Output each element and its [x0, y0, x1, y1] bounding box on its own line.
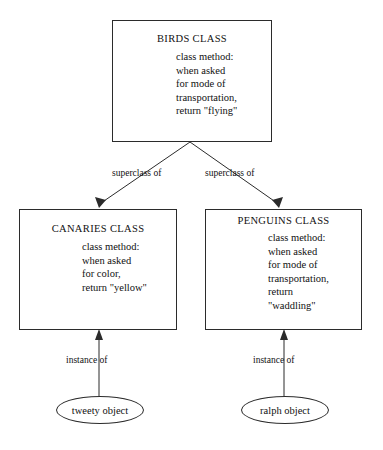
object-label-ralph: ralph object — [260, 405, 310, 416]
class-body-canaries: class method: when asked for color, retu… — [20, 240, 176, 294]
class-body-line: class method: — [268, 231, 361, 245]
edge-label-instance-of-ralph: instance of — [253, 355, 294, 365]
class-title-canaries: CANARIES CLASS — [20, 223, 176, 234]
class-body-line: return "yellow" — [82, 281, 176, 295]
arrowhead-tweety-to-canaries — [95, 329, 103, 340]
class-body-line: when asked — [268, 245, 361, 259]
object-node-tweety[interactable]: tweety object — [56, 396, 144, 424]
edge-label-superclass-of-canaries: superclass of — [112, 168, 161, 178]
class-body-line: return — [268, 285, 361, 299]
class-body-birds: class method: when asked for mode of tra… — [113, 50, 271, 118]
class-box-birds[interactable]: BIRDS CLASS class method: when asked for… — [112, 20, 272, 142]
class-body-line: class method: — [176, 50, 271, 64]
class-body-line: "waddling" — [268, 299, 361, 313]
class-body-line: when asked — [176, 64, 271, 78]
class-body-line: for color, — [82, 267, 176, 281]
class-hierarchy-diagram: BIRDS CLASS class method: when asked for… — [0, 0, 383, 450]
class-body-line: when asked — [82, 254, 176, 268]
object-label-tweety: tweety object — [72, 405, 128, 416]
edge-label-superclass-of-penguins: superclass of — [205, 168, 254, 178]
arrowhead-ralph-to-penguins — [280, 329, 288, 340]
class-title-birds: BIRDS CLASS — [113, 33, 271, 44]
class-box-canaries[interactable]: CANARIES CLASS class method: when asked … — [19, 209, 177, 330]
class-body-line: transportation, — [176, 91, 271, 105]
arrowhead-birds-to-canaries — [95, 197, 106, 208]
edge-label-instance-of-tweety: instance of — [66, 355, 107, 365]
class-body-line: class method: — [82, 240, 176, 254]
class-body-line: return "flying" — [176, 104, 271, 118]
class-body-line: transportation, — [268, 272, 361, 286]
class-title-penguins: PENGUINS CLASS — [206, 215, 361, 226]
class-body-penguins: class method: when asked for mode of tra… — [206, 231, 361, 313]
arrowhead-birds-to-penguins — [272, 197, 283, 208]
object-node-ralph[interactable]: ralph object — [241, 396, 329, 424]
class-body-line: for mode of — [268, 258, 361, 272]
class-box-penguins[interactable]: PENGUINS CLASS class method: when asked … — [205, 209, 362, 330]
class-body-line: for mode of — [176, 77, 271, 91]
